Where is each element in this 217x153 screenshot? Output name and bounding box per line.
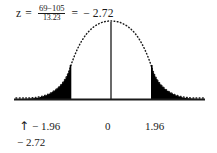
axis-label-left-critical: − 1.96 <box>32 121 60 132</box>
normal-curve <box>16 21 204 98</box>
axis-label-row: ↑ − 1.96 0 1.96 − 2.72 <box>0 116 217 153</box>
left-rejection-region <box>14 21 205 99</box>
distribution-chart <box>0 18 217 110</box>
test-statistic-arrow-icon: ↑ <box>19 120 29 132</box>
distribution-svg <box>0 18 217 110</box>
right-rejection-region <box>14 21 205 99</box>
formula-numerator: 69−105 <box>38 4 65 13</box>
axis-label-center: 0 <box>105 121 111 132</box>
normal-distribution-figure: { "formula": { "variable": "z", "equals"… <box>0 0 217 153</box>
axis-label-test-statistic: − 2.72 <box>17 137 45 148</box>
axis-label-right-critical: 1.96 <box>145 121 164 132</box>
